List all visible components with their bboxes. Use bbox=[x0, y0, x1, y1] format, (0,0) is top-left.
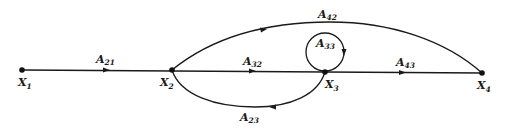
node-label-x1: X1 bbox=[17, 76, 32, 91]
edge-a33-self-loop bbox=[306, 33, 344, 71]
edge-label-a43: A43 bbox=[395, 56, 415, 70]
edge-label-a23: A23 bbox=[239, 111, 259, 125]
edge-label-a33: A33 bbox=[315, 37, 335, 51]
node-x3 bbox=[322, 69, 328, 75]
node-x1 bbox=[19, 67, 25, 73]
edge-label-a42: A42 bbox=[317, 8, 337, 22]
node-x2 bbox=[169, 67, 175, 73]
edge-label-a32: A32 bbox=[242, 55, 262, 69]
arrow-a23-icon bbox=[269, 105, 276, 110]
signal-flow-graph: X1 X2 X3 X4 A21 A32 A43 A42 A23 A33 bbox=[0, 0, 505, 133]
arrow-a21-icon bbox=[103, 68, 110, 73]
arrow-a32-icon bbox=[249, 69, 256, 74]
edge-label-a21: A21 bbox=[95, 53, 115, 67]
node-label-x4: X4 bbox=[476, 79, 491, 94]
arrow-a43-icon bbox=[399, 70, 406, 75]
arrow-a33-icon bbox=[342, 49, 347, 56]
node-label-x2: X2 bbox=[159, 76, 174, 91]
edge-a23-arc bbox=[172, 70, 325, 107]
node-label-x3: X3 bbox=[324, 78, 339, 93]
node-x4 bbox=[479, 70, 485, 76]
